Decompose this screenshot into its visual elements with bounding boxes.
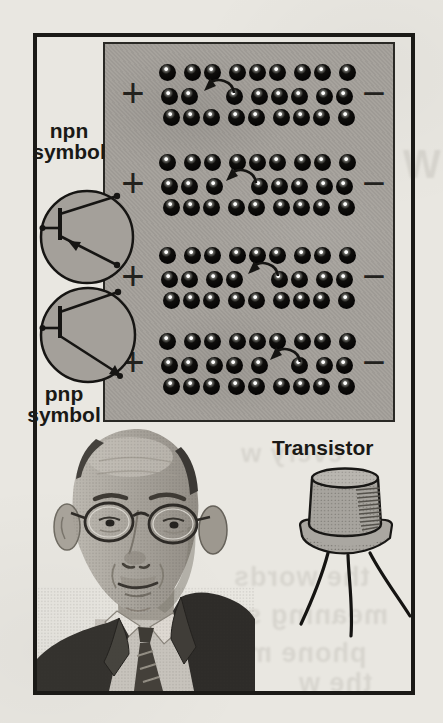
electron-dot (271, 88, 288, 105)
electron-dot (159, 333, 176, 350)
electron-dot (314, 333, 331, 350)
electron-dot (226, 357, 243, 374)
electron-dot (293, 378, 310, 395)
electron-dot (181, 271, 198, 288)
negative-terminal: − (362, 163, 385, 203)
electron-dot (291, 178, 308, 195)
electron-dot (338, 199, 355, 216)
electron-dot (293, 109, 310, 126)
electron-dot (339, 64, 356, 81)
electron-dot (313, 378, 330, 395)
electron-dot (183, 378, 200, 395)
electron-dot (184, 333, 201, 350)
electron-dot (248, 292, 265, 309)
electron-dot (271, 178, 288, 195)
electron-dot (161, 178, 178, 195)
electron-dot (273, 292, 290, 309)
electron-dot (183, 199, 200, 216)
electron-dot (339, 333, 356, 350)
electron-dot (248, 109, 265, 126)
negative-terminal: − (362, 256, 385, 296)
pnp-label-line1: pnp (20, 383, 108, 404)
electron-dot (269, 64, 286, 81)
electron-dot (338, 292, 355, 309)
electron-dot (291, 271, 308, 288)
electron-dot (161, 88, 178, 105)
electron-dot (249, 333, 266, 350)
electron-dot (336, 357, 353, 374)
electron-dot (203, 199, 220, 216)
electron-dot (269, 154, 286, 171)
transistor-leads (301, 553, 410, 636)
npn-label-line2: symbol (25, 141, 113, 162)
electron-dot (314, 154, 331, 171)
electron-dot (228, 199, 245, 216)
electron-dot (336, 271, 353, 288)
electron-dot (226, 271, 243, 288)
electron-dot (206, 178, 223, 195)
electron-dot (163, 292, 180, 309)
pnp-symbol-label: pnp symbol (20, 383, 108, 425)
bleed-through-text: W (402, 142, 441, 187)
electron-dot (161, 357, 178, 374)
electron-hop-arrow (201, 76, 237, 106)
electron-dot (184, 247, 201, 264)
transistor-caption: Transistor (272, 436, 374, 460)
portrait-photo (37, 427, 255, 691)
electron-dot (159, 247, 176, 264)
electron-dot (273, 378, 290, 395)
electron-dot (339, 154, 356, 171)
electron-dot (291, 88, 308, 105)
electron-dot (229, 247, 246, 264)
electron-hop-arrow (245, 259, 281, 289)
electron-dot (338, 378, 355, 395)
semiconductor-panel: +−+−+−+− (103, 42, 395, 422)
electron-dot (203, 378, 220, 395)
electron-dot (316, 357, 333, 374)
npn-symbol-label: npn symbol (25, 120, 113, 162)
electron-hop-arrow (223, 166, 259, 196)
negative-terminal: − (362, 342, 385, 382)
electron-dot (228, 378, 245, 395)
electron-dot (183, 109, 200, 126)
electron-dot (273, 109, 290, 126)
electron-dot (181, 88, 198, 105)
pnp-label-line2: symbol (20, 404, 108, 425)
electron-dot (336, 88, 353, 105)
electron-dot (163, 378, 180, 395)
transistor-illustration (292, 464, 422, 649)
electron-dot (159, 154, 176, 171)
electron-dot (204, 247, 221, 264)
electron-dot (203, 292, 220, 309)
electron-dot (203, 109, 220, 126)
electron-dot (228, 292, 245, 309)
electron-dot (316, 271, 333, 288)
electron-dot (184, 64, 201, 81)
electron-dot (159, 64, 176, 81)
electron-dot (204, 154, 221, 171)
negative-terminal: − (362, 73, 385, 113)
electron-dot (293, 199, 310, 216)
electron-hop-arrow (267, 345, 303, 375)
electron-dot (336, 178, 353, 195)
electron-dot (249, 64, 266, 81)
electron-dot (248, 199, 265, 216)
npn-symbol-circle (40, 191, 134, 283)
electron-dot (313, 199, 330, 216)
electron-dot (314, 247, 331, 264)
electron-dot (206, 271, 223, 288)
electron-dot (163, 109, 180, 126)
electron-dot (229, 333, 246, 350)
electron-dot (251, 88, 268, 105)
electron-dot (204, 333, 221, 350)
electron-dot (314, 64, 331, 81)
electron-dot (316, 88, 333, 105)
electron-dot (181, 178, 198, 195)
electron-dot (339, 247, 356, 264)
electron-dot (293, 292, 310, 309)
electron-dot (184, 154, 201, 171)
electron-dot (294, 247, 311, 264)
electron-dot (294, 64, 311, 81)
electron-dot (338, 109, 355, 126)
npn-label-line1: npn (25, 120, 113, 141)
